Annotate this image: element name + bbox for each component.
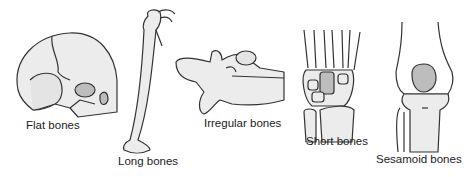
- vertebra-illustration: [176, 51, 284, 114]
- knee-illustration: [396, 22, 453, 152]
- label-long-bones: Long bones: [118, 155, 178, 167]
- label-short-bones: Short bones: [306, 135, 368, 147]
- humerus-illustration: [123, 10, 175, 153]
- label-flat-bones: Flat bones: [26, 119, 80, 131]
- skull-illustration: [17, 33, 117, 117]
- bone-types-illustration: [0, 0, 470, 177]
- label-irregular-bones: Irregular bones: [204, 117, 281, 129]
- label-sesamoid-bones: Sesamoid bones: [376, 153, 462, 165]
- wrist-illustration: [303, 30, 360, 142]
